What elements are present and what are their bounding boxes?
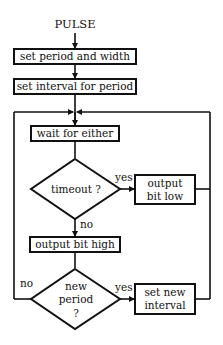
- process-label: set period and width: [20, 50, 130, 62]
- yes-label: yes: [114, 171, 133, 183]
- decision-label: timeout ?: [51, 183, 101, 195]
- process-label: bit low: [147, 190, 183, 202]
- decision-label: new: [65, 280, 87, 292]
- process-label: set new: [144, 286, 185, 298]
- process-label: output: [147, 177, 183, 189]
- no-label: no: [20, 277, 33, 289]
- process-label: wait for either: [37, 127, 114, 139]
- pulse-flowchart: PULSE set period and width set interval …: [0, 0, 223, 345]
- process-label: set interval for period: [17, 80, 134, 92]
- decision-label: ?: [73, 307, 79, 319]
- flowchart-title: PULSE: [54, 17, 95, 31]
- decision-label: period: [59, 293, 94, 305]
- process-label: interval: [144, 299, 186, 311]
- no-label: no: [80, 218, 93, 230]
- process-label: output bit high: [35, 238, 115, 250]
- yes-label: yes: [114, 281, 133, 293]
